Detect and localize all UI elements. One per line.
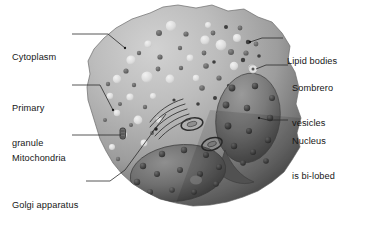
label-sombrero-vesicles-line-1: Sombrero xyxy=(292,83,333,95)
label-cytoplasm: Cytoplasm xyxy=(12,29,56,75)
label-primary-granule-line-1: Primary xyxy=(12,103,44,115)
mitochondrion xyxy=(120,128,126,139)
label-cytoplasm-line-1: Cytoplasm xyxy=(12,52,56,64)
label-mitochondria: Mitochondria xyxy=(12,130,66,176)
label-nucleus-bilobed-line-1: Nucleus xyxy=(292,136,335,148)
label-golgi-apparatus: Golgi apparatus xyxy=(12,177,78,216)
label-golgi-apparatus-line-1: Golgi apparatus xyxy=(12,200,78,212)
label-nucleus-bilobed-line-2: is bi-lobed xyxy=(292,171,335,183)
label-mitochondria-line-1: Mitochondria xyxy=(12,153,66,165)
label-nucleus-bilobed: Nucleus is bi-lobed xyxy=(292,113,335,194)
